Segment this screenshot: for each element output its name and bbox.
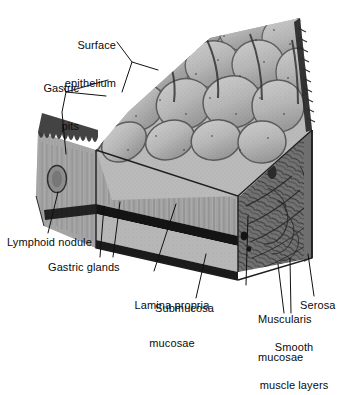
label-gastric-pits-line1: Gastric — [0, 82, 79, 95]
label-submucosa: Submucosa — [155, 302, 214, 315]
label-smooth-muscle-layers-line2: muscle layers — [260, 379, 329, 392]
vessel-lumen — [241, 232, 248, 241]
label-lamina-propria-mucosae: Lamina propria mucosae — [135, 274, 210, 374]
serosa-edge — [304, 130, 312, 262]
label-lamina-propria-line2: mucosae — [135, 337, 210, 350]
label-gastric-pits: Gastric pits — [0, 57, 79, 157]
label-gastric-glands: Gastric glands — [48, 261, 120, 274]
label-gastric-pits-line2: pits — [0, 120, 79, 133]
label-surface-epithelium-line1: Surface — [0, 39, 116, 52]
label-lymphoid-nodule: Lymphoid nodule — [7, 236, 92, 249]
label-smooth-muscle-layers-line1: Smooth — [260, 341, 329, 354]
label-serosa: Serosa — [300, 299, 335, 312]
label-smooth-muscle-layers: Smooth muscle layers — [260, 316, 329, 395]
